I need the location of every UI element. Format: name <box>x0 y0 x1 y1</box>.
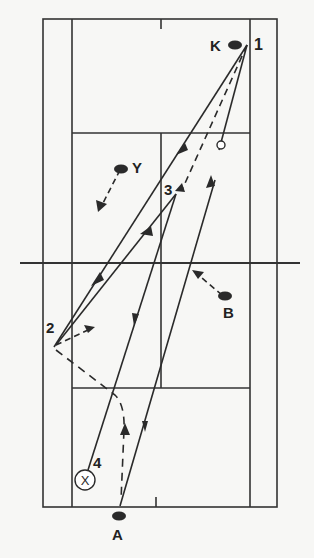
court-lines <box>20 19 300 507</box>
player-B-marker <box>218 292 232 301</box>
shot-2-to-3 <box>56 194 176 345</box>
player-K-label: K <box>210 38 221 53</box>
player-Y-movement <box>102 170 120 205</box>
shot-paths <box>54 45 247 506</box>
shot-1-to-2 <box>54 45 247 347</box>
dashed-1-to-3 <box>182 45 247 190</box>
player-Y-marker <box>114 165 128 174</box>
end-x-symbol: X <box>81 473 90 488</box>
shot-shuttle-to-1 <box>219 45 247 150</box>
shuttle-open-circle-marker <box>217 141 225 149</box>
shot-A-to-shuttle <box>120 180 215 506</box>
shot-number-1: 1 <box>254 37 263 53</box>
shot-number-4: 4 <box>93 455 101 470</box>
shot-number-2: 2 <box>46 320 54 335</box>
player-B-label: B <box>223 305 234 320</box>
player-A-label: A <box>112 527 123 542</box>
shot-number-3: 3 <box>164 182 172 197</box>
player-Y-label: Y <box>132 160 142 175</box>
shot-3-to-4 <box>88 194 176 470</box>
player-K-marker <box>228 41 242 50</box>
player-A-marker <box>112 512 126 521</box>
badminton-court-diagram: X <box>0 0 314 558</box>
